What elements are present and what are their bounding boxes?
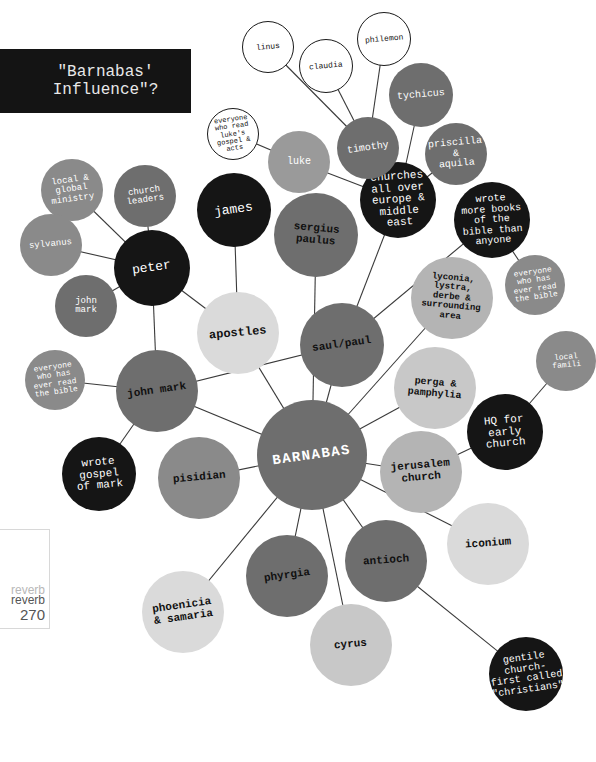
node-john-mark-small: john mark [55,275,117,337]
node-hq-early-church: HQ for early church [467,394,543,470]
diagram-title: "Barnabas' Influence"? [33,63,159,100]
node-everyone-bible-right: everyone who has ever read the bible [505,255,565,315]
node-sergius-paulus: sergius paulus [274,193,358,277]
node-label: local famili [551,351,581,370]
node-everyone-luke: everyone who read luke's gospel & acts [207,108,259,160]
node-label: perga & pamphylia [407,375,463,401]
node-label: gentile church- first called "christians… [487,648,564,700]
node-wrote-gospel-mark: wrote gospel of mark [62,437,136,511]
node-label: luke [287,157,311,168]
node-tychicus: tychicus [389,63,453,127]
node-label: sergius paulus [292,221,340,248]
node-label: timothy [346,140,389,156]
node-label: wrote more books of the bible than anyon… [460,192,524,249]
node-local-global: local & global ministry [41,159,103,221]
node-label: church leaders [125,184,165,208]
node-phyrgia: phyrgia [246,535,328,617]
node-timothy: timothy [337,117,399,179]
node-john-mark-main: john mark [116,350,198,432]
page-number: 270 [20,607,45,622]
node-label: churches all over europe & middle east [370,169,427,230]
node-saul-paul: saul/paul [300,303,384,387]
node-label: saul/paul [312,335,372,355]
node-label: lyconia, lystra, derbe & surrounding are… [420,272,483,324]
node-label: phyrgia [263,567,310,585]
node-peter: peter [114,230,190,306]
node-claudia: claudia [299,39,353,93]
node-label: local & global ministry [49,173,96,207]
node-label: cyrus [334,638,368,652]
node-label: john mark [75,297,97,316]
node-church-leaders: church leaders [114,165,176,227]
node-label: priscilla & aquila [428,136,485,172]
node-james: james [197,173,271,247]
node-label: claudia [309,60,343,71]
node-gentile-church: gentile church- first called "christians… [489,637,563,711]
node-label: apostles [209,324,267,342]
node-jerusalem-church: jerusalem church [380,431,462,513]
node-label: everyone who has ever read the bible [31,360,78,399]
node-label: BARNABAS [272,442,352,468]
node-label: pisidian [172,470,226,486]
node-label: jerusalem church [390,458,451,486]
node-label: HQ for early church [484,413,526,451]
node-label: john mark [127,381,187,401]
node-label: peter [132,259,173,278]
node-perga: perga & pamphylia [394,347,476,429]
node-cyrus: cyrus [310,604,392,686]
node-priscilla-aquila: priscilla & aquila [425,123,487,185]
node-label: phoenicia & samaria [152,596,214,627]
node-iconium: iconium [447,503,529,585]
node-antioch: antioch [345,520,427,602]
page-marker: reverb reverb 270 [0,529,50,629]
node-label: iconium [465,537,512,552]
node-philemon: philemon [357,12,411,66]
node-luke: luke [268,131,330,193]
node-linus: linus [242,21,294,73]
node-local-families: local famili [536,331,596,391]
node-label: tychicus [397,88,446,103]
brand-label: reverb [11,594,45,606]
diagram-title-box: "Barnabas' Influence"? [0,49,191,113]
node-apostles: apostles [197,292,279,374]
node-label: everyone who has ever read the bible [511,265,558,304]
node-label: everyone who read luke's gospel & acts [214,113,252,154]
node-label: linus [256,42,281,52]
node-pisidian: pisidian [158,437,240,519]
node-wrote-more: wrote more books of the bible than anyon… [454,182,530,258]
node-label: sylvanus [29,238,73,251]
node-label: wrote gospel of mark [74,455,123,494]
node-label: antioch [363,554,410,569]
node-phoenicia: phoenicia & samaria [142,571,224,653]
node-barnabas: BARNABAS [257,400,367,510]
node-everyone-bible-left: everyone who has ever read the bible [25,350,85,410]
node-label: james [214,201,255,220]
node-label: philemon [365,33,404,45]
node-lyconia: lyconia, lystra, derbe & surrounding are… [411,257,493,339]
node-sylvanus: sylvanus [20,214,82,276]
